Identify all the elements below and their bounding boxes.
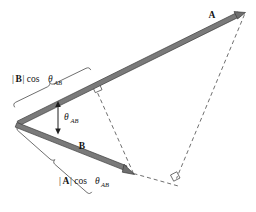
angle-label-subscript: AB [70,117,79,124]
proj-a-vector-symbol: A [63,176,70,186]
vector-projection-figure: A B θ AB | B | cos θ AB | A | cos θ AB [0,0,256,212]
proj-b-vector-symbol: B [16,74,23,84]
proj-a-bar-open: | [59,176,61,186]
proj-b-bar-open: | [12,74,14,84]
vector-b-label: B [79,141,86,151]
proj-a-bar-close-cos: | cos [70,176,87,186]
proj-a-theta: θ [95,176,100,186]
angle-label-theta: θ [64,112,69,122]
proj-b-subscript: AB [53,79,62,86]
figure-background [0,0,256,212]
vector-a-label: A [209,10,216,20]
proj-b-theta: θ [48,74,53,84]
proj-a-subscript: AB [100,181,109,188]
proj-b-bar-close-cos: | cos [23,74,40,84]
